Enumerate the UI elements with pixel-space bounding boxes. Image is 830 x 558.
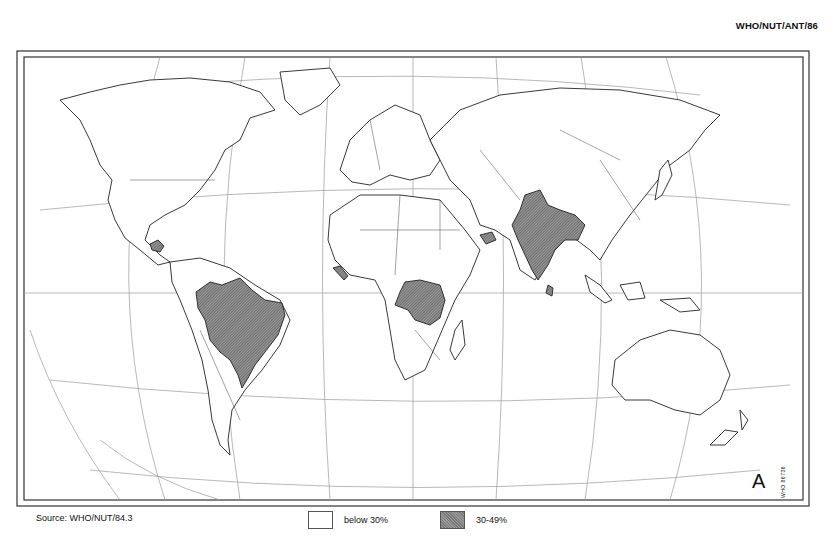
legend-label: below 30% [344,515,388,525]
legend-swatch-hatched [440,511,465,529]
map-reference-code: WHO 86736 [780,466,786,498]
legend-item-30-49: 30-49% [440,511,507,529]
legend-swatch-white [308,511,333,529]
legend-label: 30-49% [476,515,507,525]
map-content [24,57,803,500]
region-sri-lanka [546,285,553,296]
world-map [0,0,830,558]
panel-letter: A [752,470,765,493]
landmasses [60,68,748,455]
legend-item-below-30: below 30% [308,511,388,529]
source-citation: Source: WHO/NUT/84.3 [36,513,133,523]
region-central-america [150,240,164,252]
region-yemen [480,232,496,244]
